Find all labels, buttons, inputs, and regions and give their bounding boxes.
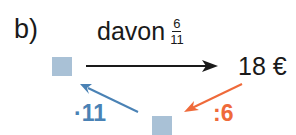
main-arrow-icon xyxy=(86,60,218,72)
multiply-arrow-icon xyxy=(80,84,138,112)
arrows-diagram xyxy=(0,0,296,135)
divide-arrow-icon xyxy=(184,84,242,112)
